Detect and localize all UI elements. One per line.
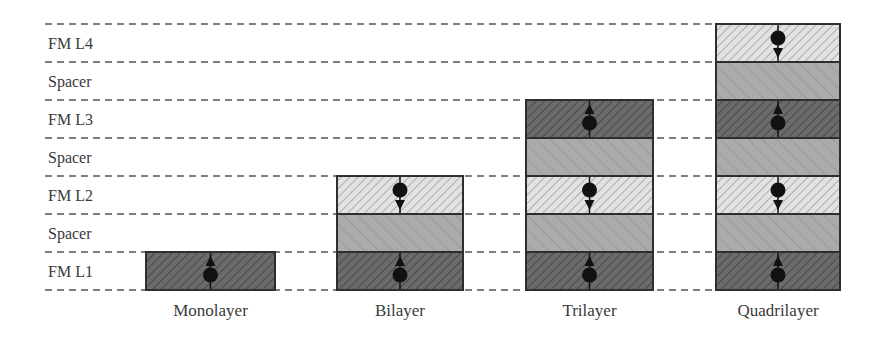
stack-label: Quadrilayer [737, 301, 819, 320]
stack-monolayer [146, 252, 275, 290]
stack-label: Trilayer [562, 301, 616, 320]
row-label: FM L4 [48, 35, 93, 52]
row-labels: FM L4SpacerFM L3SpacerFM L2SpacerFM L1 [48, 35, 93, 280]
stack-trilayer [526, 100, 653, 290]
spacer-layer [337, 214, 463, 252]
row-label: Spacer [48, 225, 92, 243]
row-label: Spacer [48, 73, 92, 91]
spacer-layer [716, 62, 840, 100]
stack-labels: MonolayerBilayerTrilayerQuadrilayer [173, 301, 819, 320]
spacer-layer [526, 138, 653, 176]
row-label: FM L3 [48, 111, 93, 128]
row-label: FM L1 [48, 263, 93, 280]
stack-quadrilayer [716, 24, 840, 290]
layer-stacks [146, 24, 840, 290]
multilayer-stack-diagram: FM L4SpacerFM L3SpacerFM L2SpacerFM L1 M… [0, 0, 881, 337]
spacer-layer [716, 138, 840, 176]
stack-bilayer [337, 176, 463, 290]
row-label: FM L2 [48, 187, 93, 204]
row-label: Spacer [48, 149, 92, 167]
stack-label: Bilayer [375, 301, 425, 320]
spacer-layer [716, 214, 840, 252]
stack-label: Monolayer [173, 301, 248, 320]
spacer-layer [526, 214, 653, 252]
